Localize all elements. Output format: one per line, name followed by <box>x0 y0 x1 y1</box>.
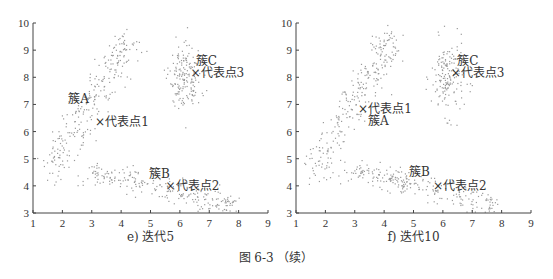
x-tick-label: 5 <box>148 217 154 229</box>
y-tick-label: 6 <box>287 126 293 138</box>
representative-point-marker: ×代表点3 <box>191 66 245 80</box>
subplot-caption: f) 迭代10 <box>387 230 439 244</box>
y-tick-label: 7 <box>287 98 293 110</box>
y-tick-label: 9 <box>287 44 293 56</box>
x-tick-label: 5 <box>411 217 417 229</box>
y-tick-label: 3 <box>24 207 30 219</box>
y-tick-label: 10 <box>18 17 30 29</box>
y-tick-label: 9 <box>24 44 30 56</box>
x-tick-label: 9 <box>528 217 534 229</box>
representative-point-marker: ×代表点3 <box>451 66 505 80</box>
x-tick-label: 3 <box>89 217 95 229</box>
x-tick-label: 4 <box>118 217 124 229</box>
y-tick-label: 8 <box>24 71 30 83</box>
scatter-panel-e: 123456789345678910簇A×代表点1簇B×代表点2簇C×代表点3e… <box>18 17 271 244</box>
representative-point-marker: ×代表点2 <box>166 179 220 193</box>
x-tick-label: 4 <box>381 217 387 229</box>
y-tick-label: 8 <box>287 71 293 83</box>
y-tick-label: 10 <box>281 17 293 29</box>
x-tick-label: 6 <box>177 217 183 229</box>
x-tick-label: 7 <box>207 217 213 229</box>
y-tick-label: 5 <box>24 153 30 165</box>
x-tick-label: 1 <box>293 217 299 229</box>
x-tick-label: 1 <box>30 217 36 229</box>
figure-caption: 图 6-3 （续） <box>239 251 314 265</box>
y-tick-label: 3 <box>287 207 293 219</box>
x-tick-label: 8 <box>499 217 505 229</box>
x-tick-label: 3 <box>352 217 358 229</box>
x-tick-label: 6 <box>440 217 446 229</box>
scatter-panel-f: 123456789345678910簇A×代表点1簇B×代表点2簇C×代表点3f… <box>281 17 534 244</box>
x-tick-label: 8 <box>236 217 242 229</box>
cluster-label: 簇A <box>68 91 89 106</box>
y-tick-label: 4 <box>287 180 293 192</box>
x-tick-label: 9 <box>265 217 271 229</box>
representative-point-marker: ×代表点2 <box>433 179 487 193</box>
y-tick-label: 5 <box>287 153 293 165</box>
subplot-caption: e) 迭代5 <box>127 230 174 244</box>
y-tick-label: 4 <box>24 180 30 192</box>
y-tick-label: 6 <box>24 126 30 138</box>
representative-point-marker: ×代表点1 <box>95 115 149 129</box>
x-tick-label: 2 <box>60 217 66 229</box>
figure: 123456789345678910簇A×代表点1簇B×代表点2簇C×代表点3e… <box>0 0 553 279</box>
x-tick-label: 7 <box>470 217 476 229</box>
x-tick-label: 2 <box>323 217 329 229</box>
cluster-label: 簇B <box>409 164 430 179</box>
representative-point-marker: ×代表点1 <box>358 102 412 116</box>
y-tick-label: 7 <box>24 98 30 110</box>
